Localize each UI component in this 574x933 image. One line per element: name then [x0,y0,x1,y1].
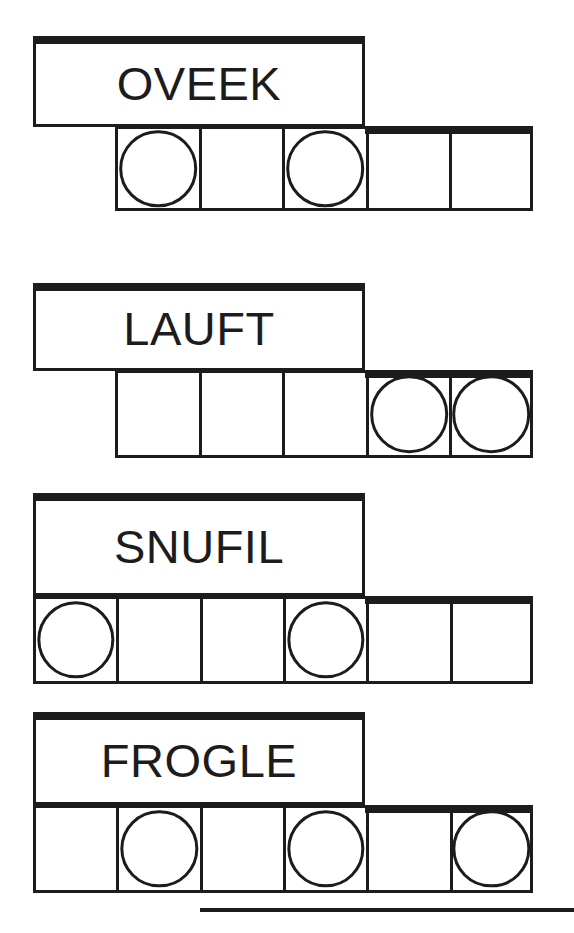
circle-marker-icon [452,375,530,453]
answer-cell-circled[interactable] [282,126,366,211]
puzzle-word-label: SNUFIL [114,523,284,570]
answer-cell-circled[interactable] [450,805,533,893]
circle-marker-icon [370,375,448,453]
answer-cell[interactable] [199,126,283,211]
cell-row-top-cap [365,370,533,378]
circle-marker-icon [121,810,198,887]
cell-row-top-cap [365,805,533,813]
answer-cell[interactable] [200,596,283,684]
circle-marker-icon [37,601,114,678]
answer-cell[interactable] [366,805,449,893]
cell-row-top-cap [365,596,533,604]
answer-cell[interactable] [282,370,366,458]
answer-cell-circled[interactable] [283,596,366,684]
circle-marker-icon [287,810,364,887]
word-box: SNUFIL [33,493,365,596]
answer-cell-row [115,370,533,458]
answer-cell-circled[interactable] [116,805,199,893]
answer-cell-row [33,596,533,684]
answer-cell[interactable] [116,596,199,684]
bottom-rule [200,908,574,912]
puzzle-word-label: OVEEK [117,60,281,107]
word-box: OVEEK [33,36,365,127]
circle-marker-icon [287,601,364,678]
answer-cell[interactable] [450,596,533,684]
answer-cell[interactable] [200,805,283,893]
word-box: FROGLE [33,712,365,805]
puzzle-word-label: FROGLE [101,737,297,784]
answer-cell[interactable] [366,596,449,684]
answer-cell-circled[interactable] [33,596,116,684]
circle-marker-icon [453,810,530,887]
circle-marker-icon [287,130,365,208]
answer-cell[interactable] [449,126,533,211]
answer-cell-circled[interactable] [366,370,450,458]
answer-cell[interactable] [33,805,116,893]
answer-cell[interactable] [199,370,283,458]
answer-cell[interactable] [115,370,199,458]
cell-row-top-cap [365,126,533,134]
worksheet-sheet: OVEEKLAUFTSNUFILFROGLE [0,0,574,933]
answer-cell-row [115,126,533,211]
answer-cell-circled[interactable] [449,370,533,458]
answer-cell-circled[interactable] [115,126,199,211]
word-box: LAUFT [33,283,365,371]
answer-cell[interactable] [366,126,450,211]
circle-marker-icon [120,130,198,208]
answer-cell-row [33,805,533,893]
answer-cell-circled[interactable] [283,805,366,893]
puzzle-word-label: LAUFT [123,305,274,352]
